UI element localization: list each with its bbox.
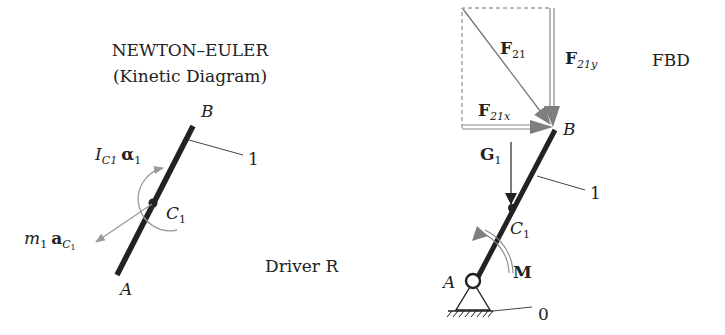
fbd-link-1-label: 1 [590, 183, 601, 203]
free-body-diagram: F21 F21y F21x FBD B G1 1 C1 M [441, 8, 690, 324]
link-1-leader [189, 140, 243, 155]
point-A-label: A [118, 279, 132, 299]
inertial-force-label: m1aC1 [24, 228, 76, 252]
kinetic-diagram: NEWTON–EULER (Kinetic Diagram) 1 B A C1 … [24, 40, 339, 299]
gravity-G1-label: G1 [480, 144, 502, 167]
kinetic-title-line1: NEWTON–EULER [112, 40, 270, 60]
moment-M-label: M [513, 262, 532, 282]
fbd-point-B-label: B [562, 119, 576, 139]
fbd-point-C1-label: C1 [510, 218, 530, 241]
fbd-link-1-leader [537, 176, 585, 190]
force-F21-arrow-icon [463, 9, 550, 124]
force-F21x-label: F21x [478, 100, 511, 123]
force-F21x-arrowhead-icon [530, 120, 553, 134]
kinetic-title-line2: (Kinetic Diagram) [113, 66, 267, 86]
point-C1-label: C1 [166, 203, 186, 226]
pin-joint-A-icon [466, 274, 480, 288]
link-1-label: 1 [248, 149, 259, 169]
newton-euler-diagram: NEWTON–EULER (Kinetic Diagram) 1 B A C1 … [0, 0, 725, 335]
force-F21y-label: F21y [565, 48, 598, 71]
force-F21y-arrowhead-icon [544, 106, 560, 127]
fbd-point-A-label: A [441, 272, 455, 292]
moment-M-arrowhead-icon [472, 226, 488, 241]
inertia-term-label: IC1α1 [94, 144, 141, 167]
force-F21-label: F21 [500, 38, 526, 61]
ground-label: 0 [538, 304, 549, 324]
point-B-label: B [200, 101, 214, 121]
driver-label: Driver R [265, 256, 339, 276]
ground-hatch-icon [447, 311, 493, 317]
fbd-label: FBD [652, 50, 690, 70]
fbd-center-of-mass-dot [508, 204, 516, 212]
ground-leader [493, 307, 532, 311]
